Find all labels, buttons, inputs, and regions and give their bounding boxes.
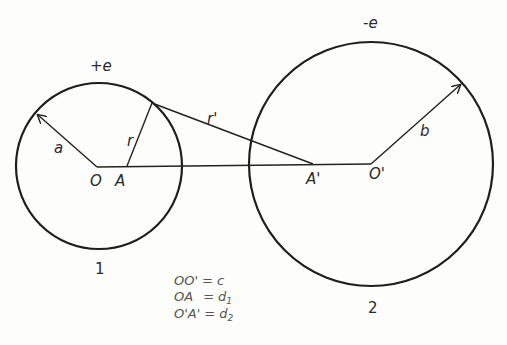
equations: OO'=c OA=d1 O'A'=d2 bbox=[174, 273, 233, 323]
center-o-prime-label: O' bbox=[369, 165, 385, 183]
center-o-label: O bbox=[90, 172, 102, 190]
radius-a-arrow bbox=[38, 115, 97, 167]
equation-1: OO'=c bbox=[174, 273, 224, 288]
charge-label-1: +e bbox=[90, 57, 112, 75]
equation-2: OA=d1 bbox=[174, 289, 232, 306]
two-sphere-diagram: +e -e a b r r' O A A' O' 1 2 OO'=c OA=d1… bbox=[0, 0, 507, 345]
r-prime-label: r' bbox=[207, 110, 217, 128]
equation-3: O'A'=d2 bbox=[174, 306, 233, 323]
radius-b-label: b bbox=[420, 122, 430, 140]
radius-b-arrow bbox=[371, 85, 460, 164]
radius-a-label: a bbox=[54, 139, 63, 157]
circle-number-1: 1 bbox=[95, 260, 105, 278]
point-a-label: A bbox=[114, 172, 125, 190]
center-line bbox=[97, 164, 371, 167]
point-a-prime-label: A' bbox=[305, 170, 320, 188]
charge-label-2: -e bbox=[363, 14, 378, 32]
r-label: r bbox=[127, 132, 134, 150]
circle-number-2: 2 bbox=[368, 299, 378, 317]
